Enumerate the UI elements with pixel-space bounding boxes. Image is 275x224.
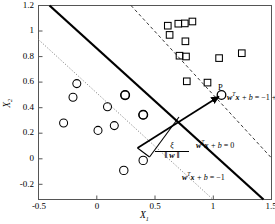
margin-positive-label: wTx + b = −1 + ξ bbox=[227, 92, 275, 102]
x-tick-label: -0.5 bbox=[24, 202, 54, 211]
x-tick-label: 0 bbox=[84, 202, 110, 211]
y-tick-label: -0.2 bbox=[5, 180, 34, 189]
y-tick-label: 0.8 bbox=[8, 52, 34, 61]
y-axis-title-text: X bbox=[2, 102, 12, 108]
y-axis-title: X2 bbox=[3, 89, 14, 117]
x-tick-label: 1 bbox=[200, 202, 226, 211]
y-tick-label: 0 bbox=[8, 154, 34, 163]
y-tick-label: 0.2 bbox=[8, 128, 34, 137]
slack-distance-label: ξ ‖ w ‖ bbox=[155, 142, 189, 161]
point-p-label: P bbox=[218, 82, 223, 92]
plot-canvas bbox=[0, 0, 275, 224]
slack-denominator: ‖ w ‖ bbox=[155, 152, 189, 160]
svm-soft-margin-figure: 1.2 1 0.8 0.6 0.4 0.2 0 -0.2 -0.5 0 0.5 … bbox=[0, 0, 275, 224]
x-tick-label: 1.5 bbox=[258, 202, 275, 211]
y-tick-label: 1.2 bbox=[8, 1, 34, 10]
x-axis-title: X1 bbox=[140, 211, 149, 222]
y-tick-label: 0.6 bbox=[8, 77, 34, 86]
y-axis-title-sub: 2 bbox=[7, 99, 13, 102]
slack-numerator: ξ bbox=[155, 142, 189, 150]
margin-negative-label: wTx + b = −1 bbox=[182, 172, 225, 182]
x-axis-title-sub: 1 bbox=[146, 216, 149, 222]
hyperplane-label: wTx + b = 0 bbox=[196, 140, 234, 150]
y-tick-label: 1 bbox=[8, 26, 34, 35]
